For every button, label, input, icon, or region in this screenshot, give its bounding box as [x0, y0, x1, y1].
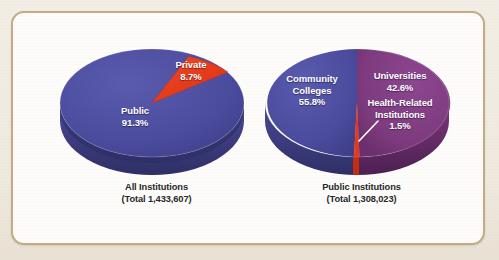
pie-left-label-private-value: 8.7% — [180, 71, 201, 82]
pie-right-label-uni-value: 42.6% — [387, 82, 413, 93]
pie-chart-public-institutions: Community Colleges 55.8% Universities 42… — [254, 11, 469, 245]
pie-right-label-uni-name: Universities — [374, 70, 427, 81]
pie-left-caption-total: (Total 1,433,607) — [49, 193, 264, 205]
pie-right-label-cc-value: 55.8% — [299, 96, 325, 107]
pie-chart-all-institutions: Public 91.3% Private 8.7% All Institutio… — [49, 11, 264, 245]
figure-plot-area: Public 91.3% Private 8.7% All Institutio… — [11, 11, 485, 245]
pie-right-caption-title: Public Institutions — [322, 182, 401, 192]
pie-right-label-community-colleges: Community Colleges 55.8% — [270, 73, 354, 108]
pie-left-label-public-name: Public — [121, 105, 149, 116]
pie-right-graphic: Community Colleges 55.8% Universities 42… — [262, 37, 452, 177]
pie-right-label-hr-name1: Health-Related — [367, 97, 432, 108]
pie-left-caption-title: All Institutions — [125, 182, 188, 192]
pie-left-caption: All Institutions (Total 1,433,607) — [49, 181, 264, 205]
pie-right-label-health-related: Health-Related Institutions 1.5% — [354, 97, 446, 132]
pie-right-depth-health — [353, 157, 359, 175]
pie-left-label-public-value: 91.3% — [122, 117, 148, 128]
pie-left-label-public: Public 91.3% — [103, 105, 167, 128]
pie-right-label-cc-name2: Colleges — [293, 85, 332, 96]
pie-right-label-cc-name1: Community — [286, 73, 337, 84]
pie-right-caption: Public Institutions (Total 1,308,023) — [254, 181, 469, 205]
pie-right-label-hr-name2: Institutions — [375, 109, 425, 120]
pie-left-label-private: Private 8.7% — [163, 59, 219, 82]
pie-right-label-hr-value: 1.5% — [389, 120, 410, 131]
pie-left-graphic: Public 91.3% Private 8.7% — [57, 37, 247, 177]
pie-right-label-universities: Universities 42.6% — [358, 70, 442, 93]
pie-right-caption-total: (Total 1,308,023) — [254, 193, 469, 205]
pie-left-label-private-name: Private — [176, 59, 207, 70]
